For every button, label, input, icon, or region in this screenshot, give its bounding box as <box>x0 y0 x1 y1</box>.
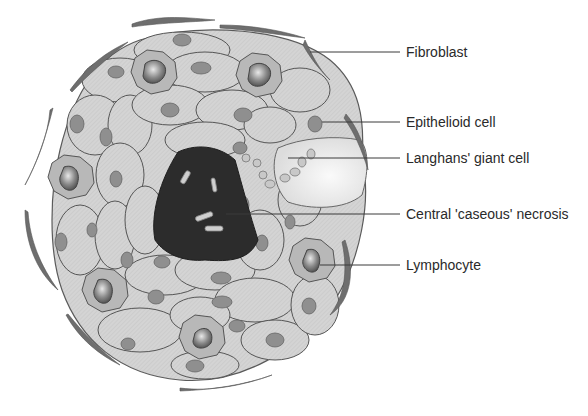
label-langhans-giant-cell: Langhans' giant cell <box>406 150 529 166</box>
label-central-caseous-necrosis: Central 'caseous' necrosis <box>406 206 569 222</box>
label-lymphocyte: Lymphocyte <box>406 257 481 273</box>
label-epithelioid-cell: Epithelioid cell <box>406 114 496 130</box>
label-fibroblast: Fibroblast <box>406 44 467 60</box>
